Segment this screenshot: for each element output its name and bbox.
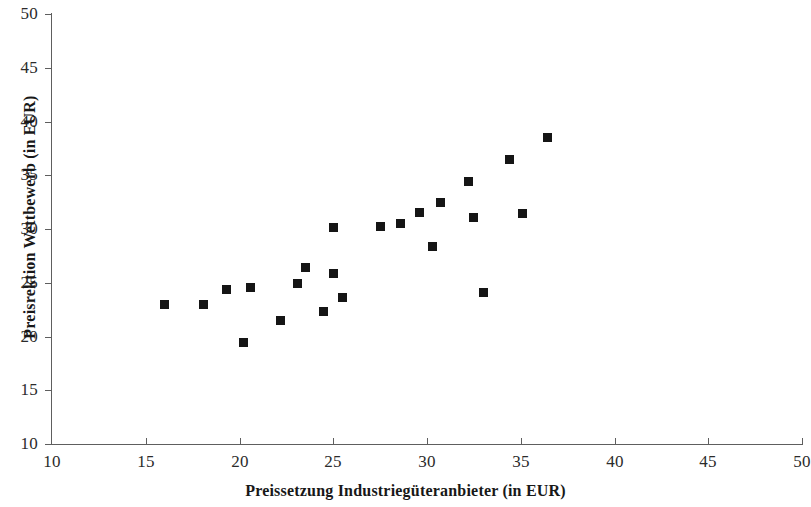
scatter-chart: 101520253035404550 101520253035404550 Pr… (0, 0, 811, 507)
y-axis-title: Preisrektion Wettbewerb (in EUR) (21, 62, 39, 372)
x-tick-label: 15 (123, 452, 169, 472)
y-tick-mark (45, 283, 52, 284)
data-point (329, 269, 338, 278)
data-point (319, 307, 328, 316)
data-point (246, 283, 255, 292)
x-tick-label: 30 (404, 452, 450, 472)
x-tick-label: 50 (779, 452, 811, 472)
data-point (338, 293, 347, 302)
data-point (160, 300, 169, 309)
data-point (428, 242, 437, 251)
x-tick-label: 20 (217, 452, 263, 472)
data-point (222, 285, 231, 294)
data-point (543, 133, 552, 142)
data-point (415, 208, 424, 217)
x-tick-label: 35 (498, 452, 544, 472)
data-point (396, 219, 405, 228)
x-tick-label: 10 (29, 452, 75, 472)
data-point (469, 213, 478, 222)
data-point (329, 223, 338, 232)
data-point (518, 209, 527, 218)
data-point (301, 263, 310, 272)
y-tick-mark (45, 14, 52, 15)
data-point (293, 279, 302, 288)
y-tick-label: 15 (4, 380, 38, 400)
data-point (376, 222, 385, 231)
plot-area (52, 14, 802, 444)
data-point (464, 177, 473, 186)
data-point (276, 316, 285, 325)
y-tick-mark (45, 229, 52, 230)
x-axis-title: Preissetzung Industriegüteranbieter (in … (0, 482, 811, 500)
y-tick-label: 50 (4, 4, 38, 24)
x-tick-label: 25 (310, 452, 356, 472)
y-tick-label: 10 (4, 434, 38, 454)
x-tick-mark (802, 438, 803, 445)
y-tick-mark (45, 444, 52, 445)
y-tick-mark (45, 337, 52, 338)
data-point (436, 198, 445, 207)
x-tick-label: 45 (685, 452, 731, 472)
y-tick-mark (45, 68, 52, 69)
data-point (505, 155, 514, 164)
y-tick-mark (45, 175, 52, 176)
x-tick-label: 40 (592, 452, 638, 472)
data-point (199, 300, 208, 309)
data-point (479, 288, 488, 297)
y-tick-mark (45, 122, 52, 123)
y-tick-mark (45, 390, 52, 391)
data-point (239, 338, 248, 347)
